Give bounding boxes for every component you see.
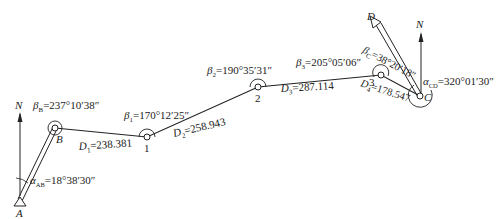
point-a-label: A bbox=[15, 207, 23, 219]
beta-1-label: β1=170°12′25″ bbox=[123, 109, 189, 124]
point-1-label: 1 bbox=[144, 142, 150, 154]
point-2-marker-icon bbox=[255, 84, 261, 90]
point-c-marker-icon bbox=[417, 93, 423, 99]
north-label-left: N bbox=[14, 99, 23, 111]
point-1-marker-icon bbox=[144, 134, 150, 140]
alpha-cd-label: αCD=320°01′30″ bbox=[423, 75, 494, 89]
point-b-marker-icon bbox=[52, 125, 58, 131]
distance-d3-label: D3=287.114 bbox=[279, 79, 334, 97]
point-d-label: D bbox=[366, 10, 375, 22]
traverse-diagram: N N A B 1 2 3 C D βB=237°10′38″ β1=170°1 bbox=[0, 0, 496, 219]
beta-2-label: β2=190°35′31″ bbox=[206, 64, 272, 79]
beta-3-label: β3=205°05′06″ bbox=[295, 56, 361, 71]
beta-c-label: βC=38°20′18″ bbox=[359, 44, 418, 84]
point-a-triangle-icon bbox=[14, 197, 26, 206]
point-c-label: C bbox=[424, 91, 432, 103]
beta-b-label: βB=237°10′38″ bbox=[32, 99, 99, 114]
distance-d4-label: D4=178.547 bbox=[358, 77, 412, 106]
point-b-label: B bbox=[56, 133, 63, 145]
distance-d1-label: D1=238.381 bbox=[77, 136, 132, 155]
north-arrow-left-icon bbox=[18, 112, 23, 196]
north-label-right: N bbox=[415, 18, 424, 30]
point-3-marker-icon bbox=[378, 72, 384, 78]
known-side-ab bbox=[18, 127, 57, 201]
point-2-label: 2 bbox=[255, 92, 261, 104]
alpha-ab-label: αAB=18°38′30″ bbox=[30, 174, 95, 188]
